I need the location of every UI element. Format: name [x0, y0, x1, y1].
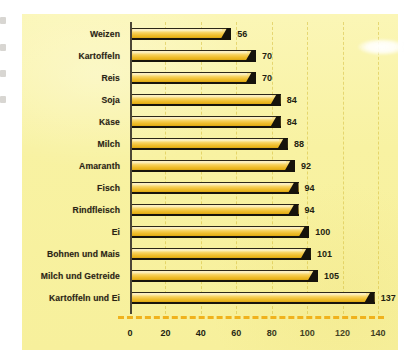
bar[interactable]: 92 — [132, 160, 295, 172]
bar-value-label: 70 — [262, 73, 272, 83]
page-canvas: Weizen56Kartoffeln70Reis70Soja84Käse84Mi… — [0, 0, 414, 361]
y-axis-line — [130, 22, 132, 314]
highlight-blob-icon — [358, 39, 406, 55]
page-edge-mark — [0, 70, 6, 77]
x-tick-140: 140 — [370, 328, 385, 338]
category-label: Rindfleisch — [73, 205, 120, 215]
bar-value-label: 84 — [287, 117, 297, 127]
bar-fill — [132, 94, 281, 106]
bar[interactable]: 105 — [132, 270, 318, 282]
category-label: Ei — [112, 227, 120, 237]
bar-fill — [132, 28, 231, 40]
bar-row: Milch und Getreide105 — [130, 266, 414, 286]
category-label: Fisch — [97, 183, 120, 193]
page-edge-mark — [0, 96, 6, 103]
page-edge-mark — [0, 44, 6, 51]
bar-fill — [132, 226, 309, 238]
bar[interactable]: 94 — [132, 182, 299, 194]
bar-fill — [132, 160, 295, 172]
bar[interactable]: 101 — [132, 248, 311, 260]
bar-fill — [132, 182, 299, 194]
bar-row: Amaranth92 — [130, 156, 414, 176]
bar-value-label: 101 — [317, 249, 332, 259]
category-label: Amaranth — [79, 161, 120, 171]
bar-value-label: 137 — [381, 293, 396, 303]
bar-row: Ei100 — [130, 222, 414, 242]
category-label: Bohnen und Mais — [47, 249, 120, 259]
bar[interactable]: 137 — [132, 292, 375, 304]
x-tick-100: 100 — [300, 328, 315, 338]
bar-fill — [132, 204, 299, 216]
bar-row: Rindfleisch94 — [130, 200, 414, 220]
bar-value-label: 94 — [305, 183, 315, 193]
x-tick-120: 120 — [335, 328, 350, 338]
bar[interactable]: 100 — [132, 226, 309, 238]
bar[interactable]: 84 — [132, 116, 281, 128]
bar-value-label: 56 — [237, 29, 247, 39]
bar-value-label: 92 — [301, 161, 311, 171]
bar-value-label: 100 — [315, 227, 330, 237]
category-label: Milch und Getreide — [41, 271, 120, 281]
bar-fill — [132, 248, 311, 260]
category-label: Soja — [101, 95, 120, 105]
bar-fill — [132, 72, 256, 84]
bar-fill — [132, 270, 318, 282]
bar-fill — [132, 116, 281, 128]
bar-row: Milch88 — [130, 134, 414, 154]
bar[interactable]: 84 — [132, 94, 281, 106]
bar-row: Soja84 — [130, 90, 414, 110]
bar-value-label: 105 — [324, 271, 339, 281]
bar-row: Käse84 — [130, 112, 414, 132]
chart-panel: Weizen56Kartoffeln70Reis70Soja84Käse84Mi… — [22, 14, 398, 350]
x-tick-40: 40 — [196, 328, 206, 338]
category-label: Milch — [98, 139, 120, 149]
x-tick-20: 20 — [160, 328, 170, 338]
baseline-dashed-rule — [118, 316, 384, 319]
category-label: Reis — [101, 73, 120, 83]
bar-fill — [132, 138, 288, 150]
category-label: Käse — [99, 117, 120, 127]
bar[interactable]: 70 — [132, 72, 256, 84]
x-tick-0: 0 — [127, 328, 132, 338]
bar-fill — [132, 50, 256, 62]
bar[interactable]: 88 — [132, 138, 288, 150]
category-label: Weizen — [90, 29, 120, 39]
x-tick-60: 60 — [231, 328, 241, 338]
x-axis-tick-labels: 020406080100120140 — [130, 328, 378, 342]
bar-row: Fisch94 — [130, 178, 414, 198]
x-tick-80: 80 — [267, 328, 277, 338]
page-edge-mark — [0, 17, 6, 24]
plot-area: Weizen56Kartoffeln70Reis70Soja84Käse84Mi… — [130, 22, 378, 314]
bar-value-label: 88 — [294, 139, 304, 149]
bar[interactable]: 56 — [132, 28, 231, 40]
bar-fill — [132, 292, 375, 304]
bar[interactable]: 94 — [132, 204, 299, 216]
bar-row: Reis70 — [130, 68, 414, 88]
category-label: Kartoffeln und Ei — [49, 293, 120, 303]
category-label: Kartoffeln — [78, 51, 120, 61]
bar-row: Bohnen und Mais101 — [130, 244, 414, 264]
bar-row: Kartoffeln und Ei137 — [130, 288, 414, 308]
bar-value-label: 94 — [305, 205, 315, 215]
bar-value-label: 70 — [262, 51, 272, 61]
bar-value-label: 84 — [287, 95, 297, 105]
bar[interactable]: 70 — [132, 50, 256, 62]
